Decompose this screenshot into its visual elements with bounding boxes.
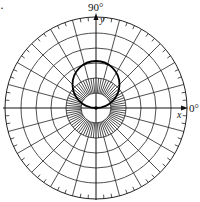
grid-tick (167, 56, 170, 58)
grid-tick (167, 158, 170, 160)
grid-inner-spoke (97, 123, 98, 138)
grid-tick (126, 190, 127, 194)
grid-spoke (110, 112, 183, 132)
grid-tick (178, 138, 182, 139)
grid-tick (10, 138, 14, 139)
grid-tick (38, 38, 41, 41)
grid-tick (182, 123, 186, 124)
grid-tick (111, 18, 112, 22)
grid-tick (21, 158, 24, 160)
grid-tick (163, 164, 166, 167)
grid-spoke (107, 119, 161, 173)
grid-spoke (32, 119, 86, 173)
grid-tick (133, 26, 135, 30)
grid-tick (182, 92, 186, 93)
grid-tick (44, 179, 46, 182)
grid-inner-spoke (111, 105, 126, 106)
grid-tick (58, 26, 60, 30)
figure-marker: · (0, 1, 4, 15)
grid-tick (163, 50, 166, 53)
grid-inner-spoke (97, 78, 98, 93)
grid-tick (178, 77, 182, 78)
grid-tick (133, 187, 135, 191)
label-0-degrees: 0° (189, 102, 199, 114)
grid-spoke (72, 122, 92, 195)
y-axis-arrowhead-icon (94, 13, 99, 20)
pole-dot (94, 106, 98, 110)
grid-tick (26, 164, 29, 167)
grid-tick (152, 38, 155, 41)
grid-tick (111, 194, 112, 198)
label-90-degrees: 90° (88, 1, 103, 13)
grid-spoke (100, 122, 120, 195)
label-y-axis: y (99, 14, 105, 25)
grid-tick (6, 92, 10, 93)
grid-tick (126, 22, 127, 26)
grid-inner-spoke (93, 78, 94, 93)
label-x-axis: x (176, 109, 182, 120)
grid-tick (175, 145, 179, 147)
grid-inner-spoke (93, 123, 94, 138)
grid-spoke (8, 112, 81, 132)
grid-inner-spoke (66, 105, 81, 106)
grid-tick (38, 175, 41, 178)
grid-inner-spoke (111, 109, 126, 110)
grid-tick (146, 33, 148, 36)
grid-tick (26, 50, 29, 53)
grid-spoke (100, 20, 120, 93)
grid-tick (146, 179, 148, 182)
grid-tick (14, 70, 18, 72)
grid-tick (152, 175, 155, 178)
grid-tick (14, 145, 18, 147)
grid-spoke (8, 84, 81, 104)
grid-tick (65, 22, 66, 26)
grid-spoke (110, 84, 183, 104)
polar-diagram: 90° y 0° x · (0, 0, 200, 202)
grid-tick (58, 187, 60, 191)
grid-inner-spoke (66, 109, 81, 110)
grid-tick (21, 56, 24, 58)
grid-tick (44, 33, 46, 36)
grid-tick (80, 18, 81, 22)
grid-tick (80, 194, 81, 198)
grid-tick (175, 70, 179, 72)
grid-tick (6, 123, 10, 124)
grid-tick (10, 77, 14, 78)
grid-tick (65, 190, 66, 194)
grid-spoke (72, 20, 92, 93)
